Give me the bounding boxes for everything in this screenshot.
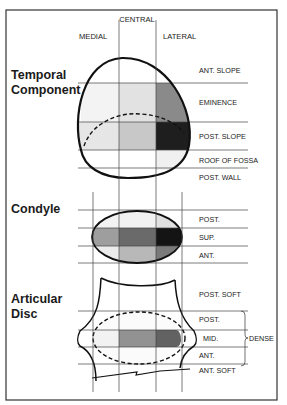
temporal-row-ant-slope: ANT. SLOPE [199, 66, 241, 75]
disc-title-line2: Disc [11, 307, 37, 321]
disc-title-line1: Articular [11, 292, 63, 306]
temporal-component-section: Temporal Component ANT. SLOPE EMINENCE P… [11, 58, 258, 182]
disc-row-ant-soft: ANT. SOFT [199, 366, 236, 375]
disc-outline-bottom [92, 369, 190, 378]
articular-disc-section: Articular Disc POST. SOFT POST. MID. ANT… [11, 278, 274, 381]
dense-label: DENSE [249, 334, 274, 343]
temporal-row-roof-of-fossa: ROOF OF FOSSA [199, 156, 258, 165]
temporal-shading [78, 83, 192, 170]
condyle-section: Condyle POST. SUP. ANT. [11, 202, 248, 264]
disc-outline-right [175, 280, 196, 368]
condyle-row-post: POST. [199, 215, 220, 224]
disc-row-ant: ANT. [199, 351, 215, 360]
disc-row-post-soft: POST. SOFT [199, 290, 242, 299]
condyle-title: Condyle [11, 202, 60, 216]
condyle-row-sup: SUP. [199, 233, 215, 242]
column-header-medial: MEDIAL [79, 32, 107, 41]
column-header-central: CENTRAL [119, 15, 154, 24]
dense-bracket [241, 311, 248, 366]
condyle-row-ant: ANT. [199, 251, 215, 260]
disc-row-mid: MID. [203, 334, 218, 343]
disc-outline-top [101, 278, 175, 286]
column-header-lateral: LATERAL [163, 32, 196, 41]
temporal-row-eminence: EMINENCE [199, 98, 237, 107]
disc-row-post: POST. [199, 315, 220, 324]
temporal-title-line1: Temporal [11, 68, 66, 82]
temporal-row-post-slope: POST. SLOPE [199, 132, 246, 141]
tmj-density-diagram: CENTRAL MEDIAL LATERAL Temporal Componen… [0, 0, 287, 405]
temporal-title-line2: Component [11, 83, 81, 97]
temporal-row-post-wall: POST. WALL [199, 173, 241, 182]
